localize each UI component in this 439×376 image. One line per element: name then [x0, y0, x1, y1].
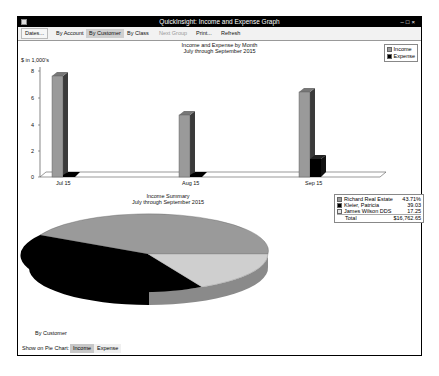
x-tick-sep: Sep 15: [305, 180, 322, 186]
total-label: Total: [337, 215, 357, 221]
group-label: By Customer: [35, 330, 67, 336]
svg-text:0: 0: [31, 174, 34, 180]
y-axis-label: $ in 1,000's: [21, 57, 49, 63]
pie-chart-subtitle: July through September 2015: [78, 199, 258, 205]
x-ticks: Jul 15 Aug 15 Sep 15: [56, 180, 322, 186]
quickinsight-window: QuickInsight: Income and Expense Graph –…: [17, 16, 422, 356]
bar-chart: $ in 1,000's 8 6 4 2 0 Jul 15: [18, 17, 423, 357]
legend-item-james[interactable]: James Wilson DDS17.25: [337, 208, 421, 214]
legend-value: 17.25: [407, 208, 421, 214]
svg-text:6: 6: [31, 95, 34, 101]
swatch: [337, 209, 342, 214]
total-value: $16,762.65: [393, 215, 421, 221]
svg-text:2: 2: [31, 148, 34, 154]
expense-toggle-button[interactable]: Expense: [94, 344, 121, 353]
show-on-pie-label: Show on Pie Chart:: [22, 344, 69, 353]
pie-chart-legend: Richard Real Estate43.71% Kleier, Patric…: [334, 194, 424, 223]
svg-text:4: 4: [31, 122, 34, 128]
legend-label: James Wilson DDS: [344, 208, 391, 214]
pie-chart: [20, 214, 268, 305]
y-ticks: 8 6 4 2 0: [31, 68, 40, 180]
pie-chart-title: Income Summary July through September 20…: [78, 193, 258, 205]
x-tick-jul: Jul 15: [56, 180, 71, 186]
x-tick-aug: Aug 15: [182, 180, 199, 186]
legend-total: Total$16,762.65: [337, 214, 421, 221]
income-toggle-button[interactable]: Income: [70, 344, 94, 353]
svg-text:8: 8: [31, 68, 34, 74]
